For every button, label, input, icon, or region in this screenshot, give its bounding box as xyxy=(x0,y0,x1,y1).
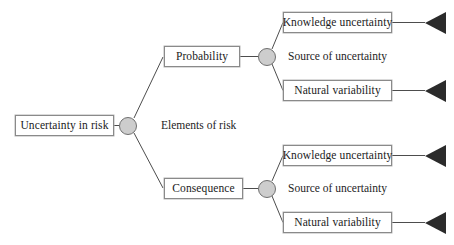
line-root-to-probability xyxy=(134,57,163,118)
line-bottom-junction-to-knowledge xyxy=(272,156,283,182)
node-label: Knowledge uncertainty xyxy=(283,150,393,162)
node-knowledge-uncertainty-bottom[interactable]: Knowledge uncertainty xyxy=(283,145,392,166)
diagram-canvas: Uncertainty in risk Elements of risk Pro… xyxy=(0,0,454,245)
arrowhead-natural-variability-top xyxy=(425,80,446,102)
label-source-of-uncertainty-bottom: Source of uncertainty xyxy=(288,183,387,195)
arrowhead-natural-variability-bottom xyxy=(425,212,446,234)
node-label: Natural variability xyxy=(294,85,381,97)
node-knowledge-uncertainty-top[interactable]: Knowledge uncertainty xyxy=(283,12,392,33)
label-elements-of-risk: Elements of risk xyxy=(161,120,236,132)
line-top-junction-to-knowledge xyxy=(272,23,283,50)
line-top-junction-to-natural xyxy=(272,64,283,91)
node-label: Uncertainty in risk xyxy=(20,120,108,132)
node-consequence[interactable]: Consequence xyxy=(164,178,243,199)
node-natural-variability-top[interactable]: Natural variability xyxy=(283,80,392,101)
node-label: Consequence xyxy=(172,183,234,195)
node-label: Knowledge uncertainty xyxy=(283,17,393,29)
node-label: Natural variability xyxy=(294,217,381,229)
arrowhead-knowledge-uncertainty-bottom xyxy=(425,145,446,167)
label-source-of-uncertainty-top: Source of uncertainty xyxy=(288,51,387,63)
line-bottom-junction-to-natural xyxy=(272,196,283,223)
junction-probability[interactable] xyxy=(258,48,276,66)
junction-consequence[interactable] xyxy=(258,180,276,198)
node-label: Probability xyxy=(176,51,228,63)
line-root-to-consequence xyxy=(134,133,163,188)
node-natural-variability-bottom[interactable]: Natural variability xyxy=(283,212,392,233)
node-probability[interactable]: Probability xyxy=(164,46,240,67)
node-uncertainty-in-risk[interactable]: Uncertainty in risk xyxy=(15,115,114,136)
junction-root[interactable] xyxy=(119,117,137,135)
arrowhead-knowledge-uncertainty-top xyxy=(425,12,446,34)
